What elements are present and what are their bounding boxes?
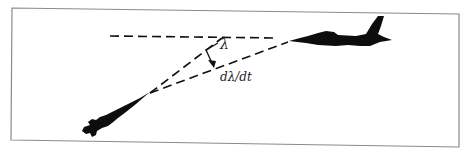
angle-arrow-icon (206, 43, 218, 63)
line-of-sight (150, 42, 288, 93)
diagram-canvas: λ dλ/dt (0, 0, 470, 153)
angle-lambda-label: λ (220, 36, 229, 52)
angle-rate-label: dλ/dt (220, 70, 252, 84)
missile-icon (82, 92, 150, 137)
reference-line (110, 36, 278, 38)
arrowhead-icon (208, 60, 216, 68)
aircraft-icon (289, 16, 392, 46)
